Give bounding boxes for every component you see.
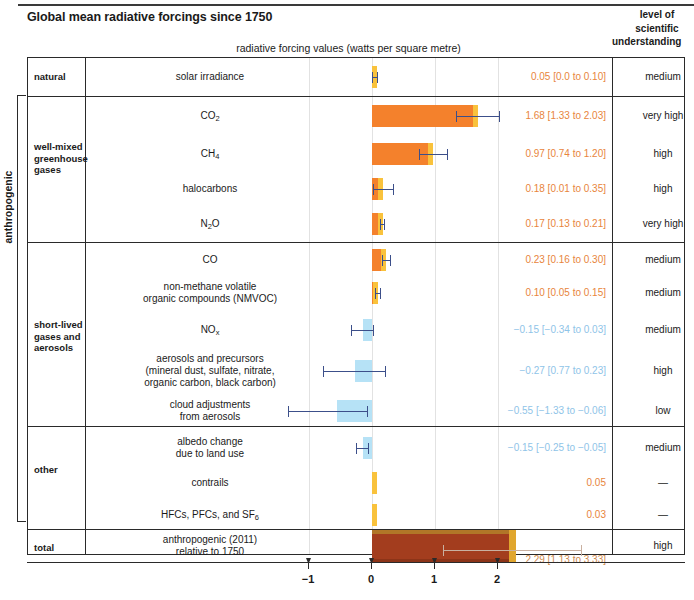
bracket-line [17,95,18,522]
row-label-line: HFCs, PFCs, and SF6 [86,509,334,524]
group-label-total: total [34,542,86,554]
row-value: 0.97 [0.74 to 1.20] [408,148,610,159]
group-label-line: well-mixed [34,141,86,153]
row-level-of-scientific-understanding: medium [613,442,694,453]
row-label: CO2 [86,110,334,125]
row-value: −0.15 [−0.25 to −0.05] [408,442,610,453]
error-bar-whisk-l [351,325,352,336]
axis-units-label: radiative forcing values (watts per squa… [85,42,612,54]
error-bar-whisk-r [367,406,368,417]
bar-cap [372,472,377,494]
row-label: aerosols and precursors(mineral dust, su… [86,353,334,389]
error-bar [373,184,394,195]
row-label: N2O [86,218,334,233]
row-label: halocarbons [86,183,334,195]
row-label: solar irradiance [86,71,334,83]
row-label: non-methane volatileorganic compounds (N… [86,281,334,305]
group-label-line: natural [34,71,86,83]
error-bar-whisk-r [377,72,378,83]
row-label-line: halocarbons [86,183,334,195]
x-tick-label: 0 [351,573,391,585]
group-label-short-lived: short-livedgases andaerosols [34,319,86,354]
row-label-line: from aerosols [86,411,334,423]
row-level-of-scientific-understanding: — [613,477,694,488]
error-bar [380,219,385,230]
row-label-line: CO [86,254,334,266]
row-value: 0.10 [0.05 to 0.15] [408,287,610,298]
row-value: 2.29 [1.13 to 3.33] [408,554,610,565]
row-level-of-scientific-understanding: medium [613,324,694,335]
row-label-line: solar irradiance [86,71,334,83]
row-value: 1.68 [1.33 to 2.03] [408,110,610,121]
error-bar-whisk-l [372,72,373,83]
error-bar-whisk-r [390,255,391,266]
row-label: cloud adjustmentsfrom aerosols [86,399,334,423]
bracket-tick-top [17,95,26,96]
top-rule [18,4,694,6]
row-label-line: N2O [86,218,334,233]
row-label-line: NOx [86,324,334,339]
row-label: CH4 [86,148,334,163]
error-bar-whisk-r [373,325,374,336]
row-label: HFCs, PFCs, and SF6 [86,509,334,524]
error-bar-whisk-l [382,255,383,266]
row-value: 0.03 [408,509,610,520]
group-label-line: other [34,464,86,476]
row-level-of-scientific-understanding: high [613,148,694,159]
error-bar-whisk-r [385,366,386,377]
x-tick [497,562,498,569]
row-label: CO [86,254,334,266]
error-bar-whisk-r [393,184,394,195]
row-label: albedo changedue to land use [86,436,334,460]
group-label-line: aerosols [34,342,86,354]
group-separator [28,96,684,97]
row-level-of-scientific-understanding: medium [613,71,694,82]
losu-header-line3: understanding [612,35,694,49]
group-label-other: other [34,464,86,476]
x-axis-line [27,562,685,563]
row-value: 0.17 [0.13 to 0.21] [408,218,610,229]
row-value: −0.15 [−0.34 to 0.03] [408,324,610,335]
row-level-of-scientific-understanding: low [613,405,694,416]
error-bar [375,288,381,299]
x-tick-label: 1 [414,573,454,585]
row-label-line: non-methane volatile [86,281,334,293]
row-label-line: due to land use [86,448,334,460]
losu-header-line2: scientific [612,22,694,36]
level-of-scientific-understanding-header: level of scientific understanding [612,8,694,49]
row-value: 0.05 [0.0 to 0.10] [408,71,610,82]
x-tick-label: 2 [477,573,517,585]
row-label-line: (mineral dust, sulfate, nitrate, [86,365,334,377]
row-value: 0.18 [0.01 to 0.35] [408,183,610,194]
group-label-line: total [34,542,86,554]
x-tick [434,562,435,569]
group-label-well-mixed: well-mixedgreenhousegases [34,141,86,176]
row-level-of-scientific-understanding: very high [613,110,694,121]
group-label-line: gases and [34,331,86,343]
page-title: Global mean radiative forcings since 175… [27,10,272,24]
error-bar [372,72,378,83]
row-label-line: organic carbon, black carbon) [86,377,334,389]
bar-cap [372,504,377,526]
row-label: contrails [86,477,334,489]
bar [372,472,377,494]
error-bar [356,443,369,454]
row-value: 0.23 [0.16 to 0.30] [408,254,610,265]
row-value: −0.27 [0.77 to 0.23] [408,365,610,376]
error-bar-whisk-l [375,288,376,299]
error-bar-whisk-l [380,219,381,230]
group-separator [28,242,684,243]
error-bar-line [373,189,394,190]
group-label-natural: natural [34,71,86,83]
error-bar-whisk-r [368,443,369,454]
row-label-line: organic compounds (NMVOC) [86,293,334,305]
row-level-of-scientific-understanding: medium [613,254,694,265]
bar [372,504,377,526]
x-tick [371,562,372,569]
x-tick-label: −1 [288,573,328,585]
group-separator [28,426,684,427]
error-bar-whisk-l [356,443,357,454]
row-level-of-scientific-understanding: medium [613,287,694,298]
anthropogenic-label: anthropogenic [0,137,16,277]
row-level-of-scientific-understanding: high [613,183,694,194]
